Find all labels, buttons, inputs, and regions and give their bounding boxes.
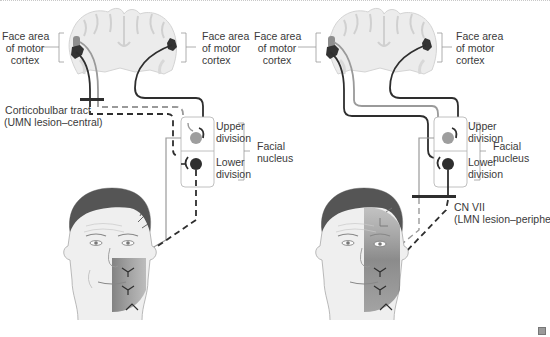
brain-coronal-section <box>329 8 436 74</box>
label-corticobulbar-tract: Corticobulbar tract (UMN lesion–central) <box>4 104 92 128</box>
label-face-area-motor-cortex-left: Face area of motor cortex <box>2 30 48 66</box>
upper-division-neuron <box>190 132 202 144</box>
face-right <box>316 188 409 320</box>
upper-division-output <box>419 138 434 195</box>
label-facial-nucleus: Facial nucleus <box>257 140 297 164</box>
label-upper-division: Upper division <box>216 120 256 144</box>
label-face-area-motor-cortex-left: Face area of motor cortex <box>254 30 300 66</box>
zoom-icon[interactable] <box>538 327 546 335</box>
label-facial-nucleus: Facial nucleus <box>493 140 538 164</box>
lower-division-neuron <box>442 158 454 170</box>
lower-division-neuron <box>190 158 202 170</box>
lesion-bar-umn <box>80 98 104 101</box>
label-cn-vii-lesion: CN VII (LMN lesion–peripheral) <box>454 201 550 225</box>
label-lower-division: Lower division <box>216 156 256 180</box>
label-face-area-motor-cortex-right: Face area of motor cortex <box>456 30 516 66</box>
label-face-area-motor-cortex-right: Face area of motor cortex <box>202 30 262 66</box>
lesion-bar-lmn <box>412 195 456 198</box>
facial-nucleus <box>181 117 214 187</box>
upper-division-neuron <box>442 132 454 144</box>
face-left <box>64 188 157 320</box>
facial-nucleus <box>434 117 467 187</box>
pathway-light-dashed <box>98 101 183 118</box>
